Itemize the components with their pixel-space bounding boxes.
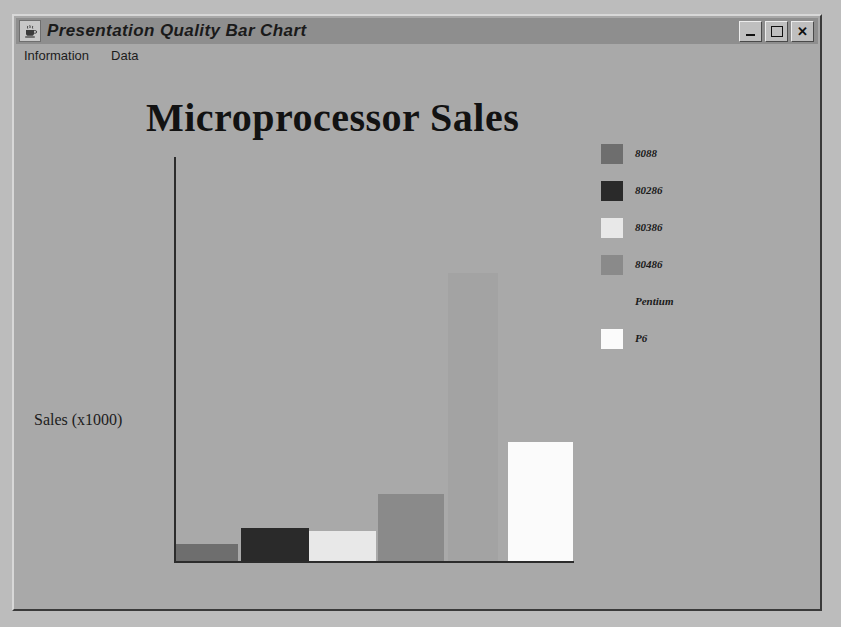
legend-item-80386: 80386	[601, 218, 751, 255]
window-controls: ✕	[739, 21, 814, 42]
legend-item-pentium: Pentium	[601, 292, 751, 329]
window-title: Presentation Quality Bar Chart	[47, 21, 307, 41]
y-axis-label: Sales (x1000)	[34, 411, 122, 429]
legend-label-80286: 80286	[635, 184, 663, 196]
legend-label-p6: P6	[635, 332, 647, 344]
legend-swatch-80386	[601, 218, 623, 238]
menu-item-data[interactable]: Data	[111, 48, 138, 63]
bar-80286	[241, 528, 309, 561]
bar-pentium	[448, 273, 498, 561]
legend-item-p6: P6	[601, 329, 751, 366]
legend-label-8088: 8088	[635, 147, 657, 159]
legend-swatch-8088	[601, 144, 623, 164]
bar-80386	[309, 531, 376, 561]
legend-swatch-80286	[601, 181, 623, 201]
legend-label-80486: 80486	[635, 258, 663, 270]
legend-label-pentium: Pentium	[635, 295, 674, 307]
x-axis-line	[174, 561, 574, 563]
menu-bar: Information Data	[16, 44, 818, 66]
bar-8088	[176, 544, 238, 561]
minimize-button[interactable]	[739, 21, 762, 42]
maximize-button[interactable]	[765, 21, 788, 42]
bars-container	[176, 157, 576, 561]
chart-canvas: Microprocessor Sales Sales (x1000) Proce…	[16, 66, 818, 607]
bar-p6	[508, 442, 573, 561]
menu-item-information[interactable]: Information	[24, 48, 89, 63]
chart-legend: 8088802868038680486PentiumP6	[601, 144, 751, 366]
title-bar[interactable]: Presentation Quality Bar Chart ✕	[16, 18, 818, 44]
legend-swatch-p6	[601, 329, 623, 349]
close-button[interactable]: ✕	[791, 21, 814, 42]
legend-swatch-pentium	[601, 292, 623, 312]
legend-label-80386: 80386	[635, 221, 663, 233]
chart-title: Microprocessor Sales	[146, 94, 519, 141]
page-background: Presentation Quality Bar Chart ✕ Informa…	[0, 0, 841, 627]
legend-item-8088: 8088	[601, 144, 751, 181]
application-window: Presentation Quality Bar Chart ✕ Informa…	[12, 14, 822, 611]
legend-item-80486: 80486	[601, 255, 751, 292]
java-coffee-cup-icon	[19, 20, 41, 42]
legend-item-80286: 80286	[601, 181, 751, 218]
bar-80486	[378, 494, 444, 561]
legend-swatch-80486	[601, 255, 623, 275]
